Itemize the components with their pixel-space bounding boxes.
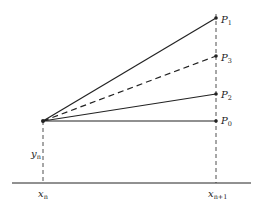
point-p0 — [214, 119, 218, 123]
label-p1: P1 — [220, 14, 232, 27]
label-xn: xn — [38, 188, 48, 201]
point-p1 — [214, 16, 218, 20]
point-p3 — [214, 54, 218, 58]
label-yn: yn — [30, 148, 41, 161]
line-to-p3 — [43, 56, 216, 121]
label-p2: P2 — [220, 89, 232, 102]
label-xn1: xn+1 — [208, 188, 227, 201]
runge-kutta-diagram: P1 P3 P2 P0 yn xn xn+1 — [0, 0, 259, 210]
line-to-p2 — [43, 94, 216, 121]
line-to-p1 — [43, 18, 216, 121]
label-p0: P0 — [220, 115, 232, 128]
origin-point — [41, 119, 45, 123]
label-p3: P3 — [220, 52, 232, 65]
point-p2 — [214, 92, 218, 96]
